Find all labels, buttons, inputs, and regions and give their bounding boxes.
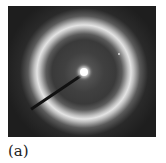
panel-label: (a) — [8, 142, 29, 160]
bright-speck — [118, 53, 120, 55]
diffraction-pattern-image — [8, 6, 156, 137]
center-beam-spot — [80, 68, 88, 76]
